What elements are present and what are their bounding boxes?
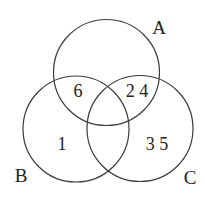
region-a-and-b: 6 xyxy=(74,81,83,101)
region-c-only: 3 5 xyxy=(146,134,169,154)
set-label-b: B xyxy=(15,165,28,186)
set-label-c: C xyxy=(184,167,197,188)
venn-diagram: A B C 6 2 4 1 3 5 xyxy=(0,0,205,198)
circle-a xyxy=(54,20,160,126)
set-label-a: A xyxy=(152,17,166,38)
region-b-only: 1 xyxy=(58,134,67,154)
region-a-and-c: 2 4 xyxy=(126,81,149,101)
